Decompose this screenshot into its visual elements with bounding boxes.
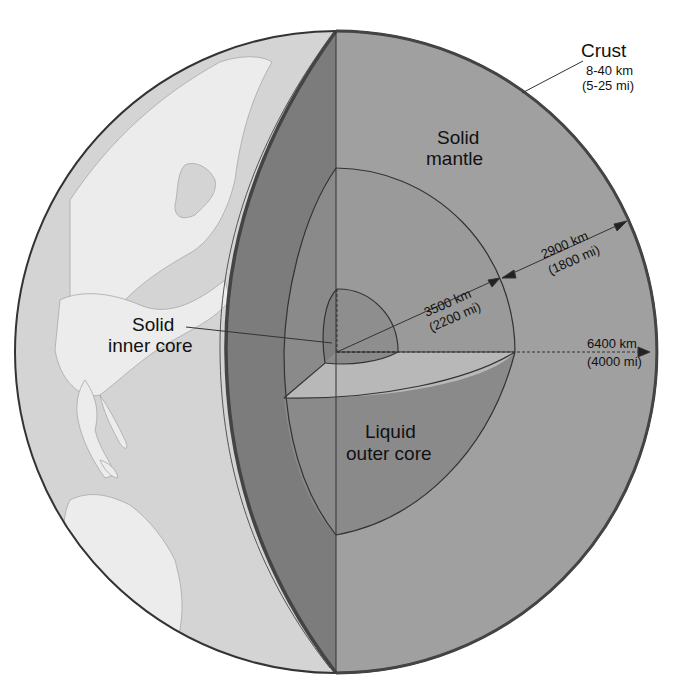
earth-radius-mi: (4000 mi) [587, 355, 642, 369]
earth-interior-diagram: Crust 8-40 km (5-25 mi) Solid mantle Sol… [0, 0, 673, 687]
crust-thickness-km: 8-40 km [586, 64, 633, 78]
outer-core-label-line1: Liquid [365, 422, 416, 443]
crust-thickness-mi: (5-25 mi) [582, 79, 634, 93]
mantle-label-line1: Solid [437, 128, 479, 149]
inner-core-label-line2: inner core [108, 336, 193, 357]
earth-cutaway-graphic [0, 0, 673, 687]
mantle-label-line2: mantle [426, 149, 483, 170]
inner-core-label-line1: Solid [132, 315, 174, 336]
crust-title: Crust [581, 41, 626, 62]
outer-core-label-line2: outer core [346, 444, 432, 465]
earth-radius-km: 6400 km [587, 337, 637, 351]
